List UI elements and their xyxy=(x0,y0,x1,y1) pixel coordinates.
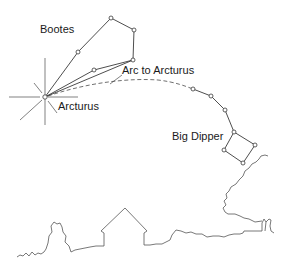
treeline-right xyxy=(144,219,266,245)
bootes-star xyxy=(92,68,96,72)
bootes-star xyxy=(109,16,113,20)
big-dipper-star xyxy=(241,161,245,165)
treeline-far-right xyxy=(266,219,274,233)
bootes-star xyxy=(131,58,135,62)
arc-to-arcturus-path xyxy=(48,80,193,96)
big-dipper-bowl xyxy=(224,132,255,163)
bootes-star xyxy=(76,50,80,54)
starburst-ray-lower-right xyxy=(48,101,57,113)
arcturus-star xyxy=(43,95,47,99)
big-dipper-star xyxy=(232,130,236,134)
treeline-left xyxy=(17,222,100,257)
treeline-tall-right xyxy=(223,155,268,222)
bootes-label: Bootes xyxy=(40,23,75,35)
arcturus-starburst xyxy=(9,58,78,125)
big-dipper-constellation xyxy=(191,87,257,165)
big-dipper-star xyxy=(253,143,257,147)
big-dipper-label: Big Dipper xyxy=(172,130,224,142)
arc-label-leader xyxy=(110,75,122,84)
house xyxy=(100,208,147,246)
starburst-ray-upper-left xyxy=(34,83,42,93)
star-diagram: Bootes Arc to Arcturus Arcturus Big Dipp… xyxy=(0,0,284,270)
bootes-star xyxy=(132,28,136,32)
arc-to-arcturus-label: Arc to Arcturus xyxy=(122,64,195,76)
big-dipper-star xyxy=(191,87,195,91)
big-dipper-star xyxy=(209,94,213,98)
arcturus-label: Arcturus xyxy=(58,100,99,112)
starburst-ray-lower-left xyxy=(20,100,42,120)
big-dipper-star xyxy=(223,108,227,112)
big-dipper-star xyxy=(222,148,226,152)
big-dipper-handle xyxy=(193,89,234,132)
